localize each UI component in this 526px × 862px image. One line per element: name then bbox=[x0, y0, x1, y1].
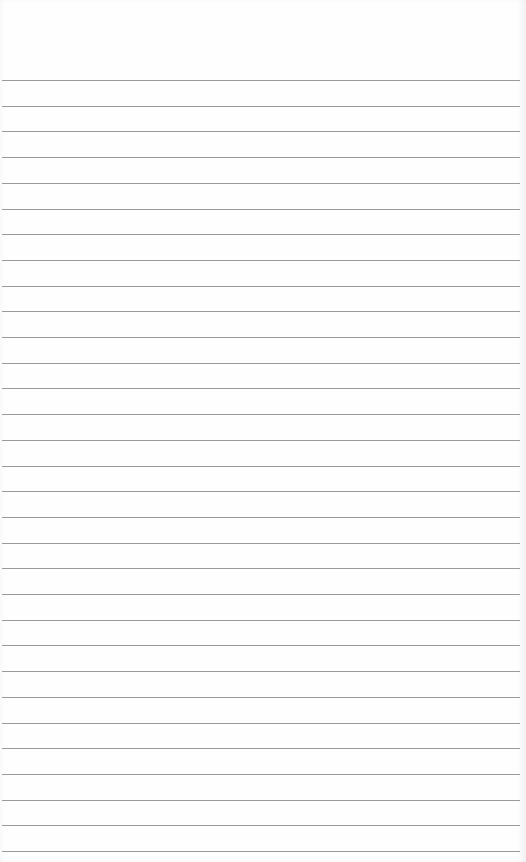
ruled-line bbox=[2, 594, 520, 595]
ruled-line bbox=[2, 157, 520, 158]
ruled-line bbox=[2, 131, 520, 132]
ruled-line bbox=[2, 337, 520, 338]
ruled-line bbox=[2, 491, 520, 492]
ruled-line bbox=[2, 851, 520, 852]
ruled-line bbox=[2, 543, 520, 544]
ruled-line bbox=[2, 209, 520, 210]
lined-paper-page bbox=[0, 0, 526, 862]
ruled-line bbox=[2, 800, 520, 801]
ruled-line bbox=[2, 363, 520, 364]
ruled-line bbox=[2, 697, 520, 698]
ruled-line bbox=[2, 260, 520, 261]
ruled-line bbox=[2, 568, 520, 569]
ruled-line bbox=[2, 388, 520, 389]
ruled-line bbox=[2, 671, 520, 672]
ruled-line bbox=[2, 774, 520, 775]
ruled-line bbox=[2, 748, 520, 749]
ruled-line bbox=[2, 645, 520, 646]
ruled-line bbox=[2, 183, 520, 184]
ruled-line bbox=[2, 311, 520, 312]
ruled-line bbox=[2, 466, 520, 467]
ruled-line bbox=[2, 286, 520, 287]
ruled-line bbox=[2, 517, 520, 518]
ruled-line bbox=[2, 825, 520, 826]
ruled-line bbox=[2, 723, 520, 724]
ruled-line bbox=[2, 106, 520, 107]
ruled-line bbox=[2, 620, 520, 621]
ruled-line bbox=[2, 414, 520, 415]
ruled-line bbox=[2, 234, 520, 235]
ruled-line bbox=[2, 440, 520, 441]
ruled-line bbox=[2, 80, 520, 81]
